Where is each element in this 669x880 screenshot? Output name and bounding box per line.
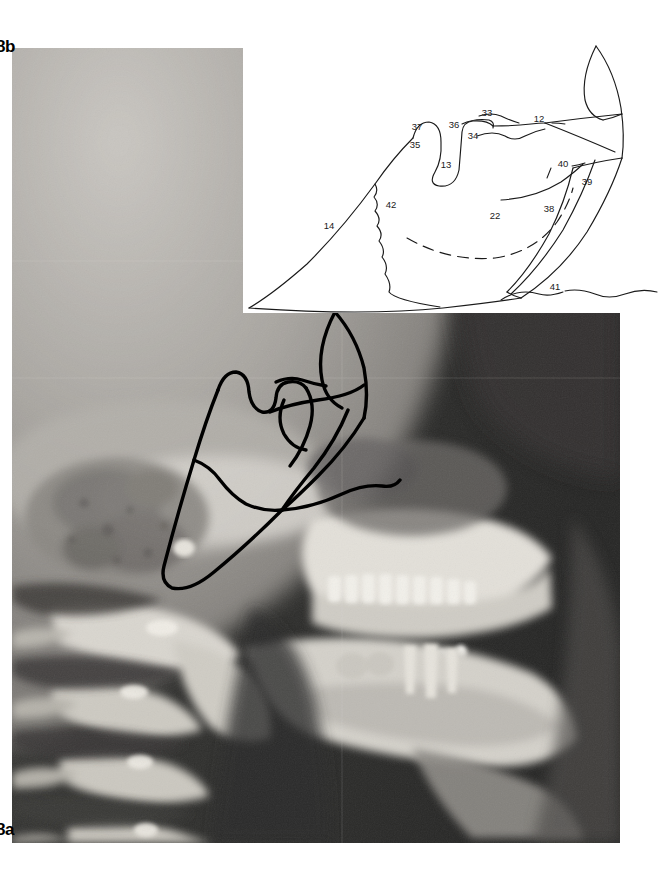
panel-background <box>243 36 669 313</box>
label-38: 38 <box>544 203 555 214</box>
mandible-line-drawing: 12 13 14 22 33 34 35 36 37 38 39 40 41 4… <box>243 36 669 313</box>
label-33: 33 <box>482 107 493 118</box>
label-42: 42 <box>386 199 397 210</box>
label-12: 12 <box>534 113 545 124</box>
label-35: 35 <box>410 139 421 150</box>
label-34: 34 <box>468 130 479 141</box>
label-39: 39 <box>582 176 593 187</box>
mandible-tracing-panel: 12 13 14 22 33 34 35 36 37 38 39 40 41 4… <box>243 36 669 313</box>
label-22: 22 <box>490 210 501 221</box>
label-37: 37 <box>412 121 423 132</box>
label-40: 40 <box>558 158 569 169</box>
label-41: 41 <box>550 281 561 292</box>
figure-label-lower: 8a <box>0 821 14 838</box>
anatomy-figure: 12 13 14 22 33 34 35 36 37 38 39 40 41 4… <box>0 0 669 880</box>
figure-label-upper: 8b <box>0 38 15 55</box>
label-36: 36 <box>449 119 460 130</box>
label-14: 14 <box>324 220 335 231</box>
label-13: 13 <box>441 159 452 170</box>
